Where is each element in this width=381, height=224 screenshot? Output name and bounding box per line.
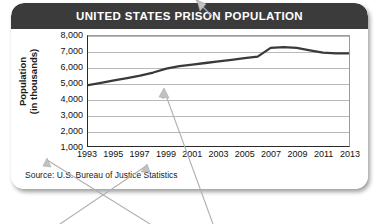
x-tick-label: 2013 [340,149,360,159]
x-tick-label: 1999 [156,149,176,159]
chart-card-inner: UNITED STATES PRISON POPULATION Populati… [11,3,368,189]
chart-card: UNITED STATES PRISON POPULATION Populati… [11,3,368,189]
y-tick-label: 8,000 [60,30,83,40]
screenshot-root: UNITED STATES PRISON POPULATION Populati… [0,0,381,224]
source-note: Source: U.S. Bureau of Justice Statistic… [25,170,178,180]
chart-title: UNITED STATES PRISON POPULATION [76,10,303,22]
x-tick-label: 2011 [314,149,333,159]
chart-header-bar: UNITED STATES PRISON POPULATION [11,3,368,29]
y-axis-title: Population (in thousands) [18,39,39,125]
data-line-series [88,36,349,147]
x-tick-label: 1997 [130,149,150,159]
y-tick-label: 6,000 [60,62,83,72]
y-tick-label: 3,000 [60,110,83,120]
chart-body: Population (in thousands) 8,0007,0006,00… [11,29,368,189]
x-tick-label: 2003 [208,149,228,159]
x-axis-tick-labels: 1993199519971999200120032005200720092011… [87,149,350,163]
y-tick-label: 2,000 [60,126,83,136]
chart-plot-area: Population (in thousands) 8,0007,0006,00… [11,29,368,161]
x-tick-label: 2007 [261,149,281,159]
y-axis-title-line1: Population [18,39,29,125]
x-tick-label: 2001 [182,149,202,159]
x-tick-label: 1993 [77,149,97,159]
x-tick-label: 1995 [103,149,123,159]
x-tick-label: 2009 [287,149,307,159]
y-tick-label: 4,000 [60,94,83,104]
y-tick-label: 5,000 [60,78,83,88]
y-axis-title-line2: (in thousands) [28,39,39,125]
y-tick-label: 7,000 [60,46,83,56]
y-axis-tick-labels: 8,0007,0006,0005,0004,0003,0002,0001,000 [53,35,83,147]
plot-frame [87,35,350,147]
x-tick-label: 2005 [235,149,255,159]
prison-population-line [88,47,349,85]
